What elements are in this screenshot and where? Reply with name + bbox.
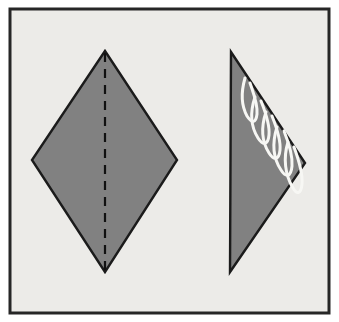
origami-fold-figure: Paper folding diagram: kite with vertica… bbox=[0, 0, 339, 322]
figure-canvas bbox=[0, 0, 339, 322]
